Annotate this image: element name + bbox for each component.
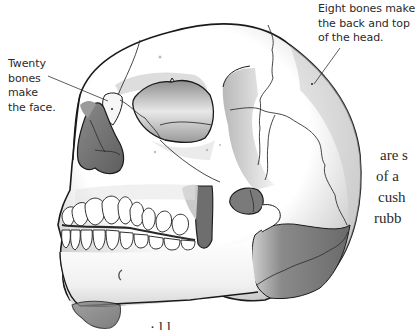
- callout-line: Eight bones make: [318, 2, 418, 17]
- body-text-column: are s of a cush rubb: [380, 145, 420, 229]
- cut-off-text-line: · l l . . .: [150, 322, 410, 330]
- body-text-line: cush: [378, 187, 420, 208]
- body-text-line: rubb: [374, 208, 420, 229]
- body-text-line: are s: [380, 145, 420, 166]
- body-text-line: of a: [376, 166, 420, 187]
- callout-line: the face.: [8, 101, 68, 116]
- callout-line: make: [8, 86, 68, 101]
- ear-canal: [230, 188, 263, 214]
- callout-line: Twenty: [8, 57, 68, 72]
- callout-back-of-head: Eight bones make the back and top of the…: [318, 2, 418, 46]
- cut-off-text: · l l . . .: [150, 322, 410, 330]
- occipital-shade: [252, 224, 350, 299]
- callout-line: the back and top: [318, 17, 418, 32]
- callout-line: bones: [8, 72, 68, 87]
- chin: [72, 301, 121, 328]
- callout-line: of the head.: [318, 31, 418, 46]
- mandible-ramus: [195, 186, 213, 248]
- callout-face: Twenty bones make the face.: [8, 57, 68, 115]
